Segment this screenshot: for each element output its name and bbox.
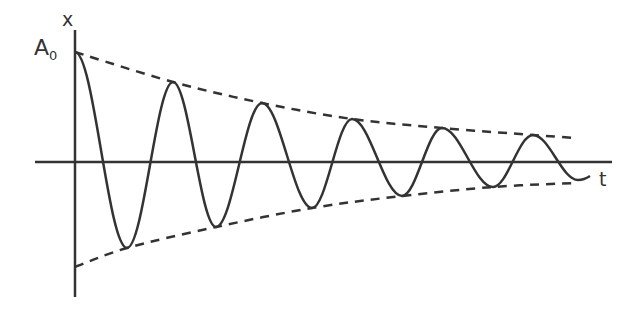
amplitude-label-main: A bbox=[34, 35, 49, 60]
upper-envelope-curve bbox=[75, 52, 575, 138]
y-axis-label: x bbox=[62, 8, 73, 30]
x-axis-label: t bbox=[599, 168, 606, 190]
amplitude-label: A0 bbox=[34, 35, 57, 63]
damped-oscillation-curve bbox=[75, 52, 590, 248]
lower-envelope-curve bbox=[75, 183, 575, 267]
amplitude-label-subscript: 0 bbox=[49, 48, 57, 63]
damped-oscillation-diagram: x t A0 bbox=[0, 0, 642, 312]
